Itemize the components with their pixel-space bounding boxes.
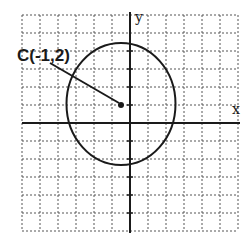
x-axis-label: x [232, 101, 240, 117]
y-axis-label: y [134, 9, 143, 25]
coordinate-plane: C(-1,2) y x [0, 0, 252, 233]
center-point [118, 102, 124, 108]
radius-pointer-line [50, 63, 119, 103]
center-label: C(-1,2) [17, 46, 70, 65]
